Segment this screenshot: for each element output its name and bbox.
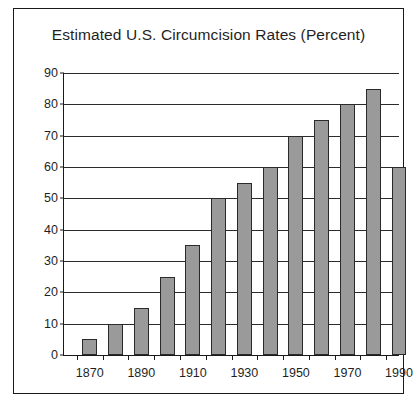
bar-1870 <box>82 339 97 355</box>
x-tick-label-1970: 1970 <box>334 366 362 380</box>
bar-1960 <box>314 120 329 355</box>
x-tick-mark-1920 <box>206 355 207 360</box>
bar-1940 <box>263 167 278 355</box>
x-tick-mark-1880 <box>103 355 104 360</box>
x-tick-label-1870: 1870 <box>76 366 104 380</box>
bar-1950 <box>288 136 303 355</box>
x-tick-label-1910: 1910 <box>179 366 207 380</box>
y-tick-label-30: 30 <box>44 254 58 268</box>
y-tick-label-50: 50 <box>44 191 58 205</box>
bar-1880 <box>108 324 123 355</box>
y-tick-mark-80 <box>60 104 64 105</box>
x-tick-mark-1890 <box>128 355 129 360</box>
chart-title: Estimated U.S. Circumcision Rates (Perce… <box>14 26 403 44</box>
y-tick-mark-50 <box>60 198 64 199</box>
bar-1990 <box>392 167 407 355</box>
x-tick-mark-1980 <box>360 355 361 360</box>
bar-1930 <box>237 183 252 355</box>
bar-1920 <box>211 198 226 355</box>
x-tick-label-1950: 1950 <box>282 366 310 380</box>
x-tick-label-1930: 1930 <box>230 366 258 380</box>
chart-figure: Estimated U.S. Circumcision Rates (Perce… <box>13 8 404 394</box>
x-tick-mark-1990 <box>386 355 387 360</box>
x-tick-mark-1910 <box>180 355 181 360</box>
y-tick-mark-90 <box>60 73 64 74</box>
y-tick-label-80: 80 <box>44 97 58 111</box>
y-tick-mark-10 <box>60 323 64 324</box>
y-tick-label-20: 20 <box>44 285 58 299</box>
y-tick-label-10: 10 <box>44 317 58 331</box>
y-tick-label-60: 60 <box>44 160 58 174</box>
x-tick-mark-1970 <box>335 355 336 360</box>
y-tick-mark-60 <box>60 167 64 168</box>
bar-1900 <box>160 277 175 355</box>
gridline-90 <box>64 73 399 74</box>
y-tick-mark-0 <box>60 355 64 356</box>
x-tick-mark-1900 <box>154 355 155 360</box>
bar-1970 <box>340 104 355 355</box>
x-tick-mark-1950 <box>283 355 284 360</box>
x-tick-mark-1870 <box>77 355 78 360</box>
y-tick-label-0: 0 <box>51 348 58 362</box>
y-tick-label-90: 90 <box>44 66 58 80</box>
bar-1890 <box>134 308 149 355</box>
y-tick-mark-20 <box>60 292 64 293</box>
x-tick-label-1890: 1890 <box>127 366 155 380</box>
x-tick-mark-1940 <box>257 355 258 360</box>
y-tick-label-70: 70 <box>44 129 58 143</box>
x-tick-mark-1930 <box>232 355 233 360</box>
y-tick-label-40: 40 <box>44 223 58 237</box>
y-tick-mark-40 <box>60 229 64 230</box>
y-tick-mark-30 <box>60 261 64 262</box>
bar-1910 <box>185 245 200 355</box>
x-tick-label-1990: 1990 <box>385 366 413 380</box>
bar-1980 <box>366 89 381 355</box>
y-tick-mark-70 <box>60 135 64 136</box>
x-tick-mark-1960 <box>309 355 310 360</box>
plot-area: 0102030405060708090 18701890191019301950… <box>63 73 399 356</box>
